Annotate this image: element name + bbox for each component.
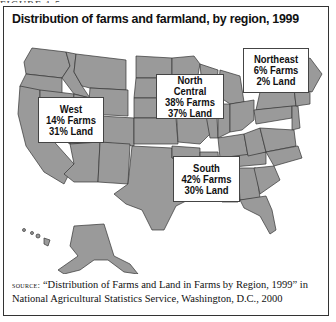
region-label-south: South 42% Farms 30% Land [173,156,240,202]
source-text: “Distribution of Farms and Land in Farms… [12,279,308,304]
region-label-northeast: Northeast 6% Farms 2% Land [243,48,309,93]
region-label-west: West 14% Farms 31% Land [38,97,104,143]
source-citation: source: “Distribution of Farms and Land … [12,278,324,305]
source-label: source: [12,280,40,290]
alaska-shape [58,224,138,274]
figure-title: Distribution of farms and farmland, by r… [12,11,299,26]
hawaii-shapes [23,229,51,247]
header-cutoff: FIGURE 1.5 [0,0,80,3]
region-label-north-central: North Central 38% Farms 37% Land [156,74,224,119]
